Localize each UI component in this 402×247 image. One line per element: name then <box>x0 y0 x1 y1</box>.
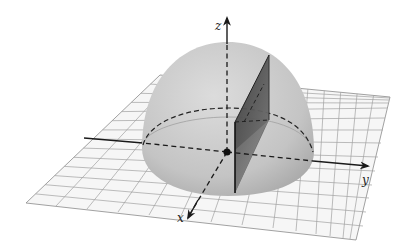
hemisphere <box>142 42 314 196</box>
x-axis-label: x <box>177 211 184 225</box>
hemisphere-diagram: z y x <box>0 0 402 247</box>
origin-point <box>223 148 230 155</box>
y-axis-label: y <box>361 173 369 187</box>
z-axis-label: z <box>214 19 222 33</box>
